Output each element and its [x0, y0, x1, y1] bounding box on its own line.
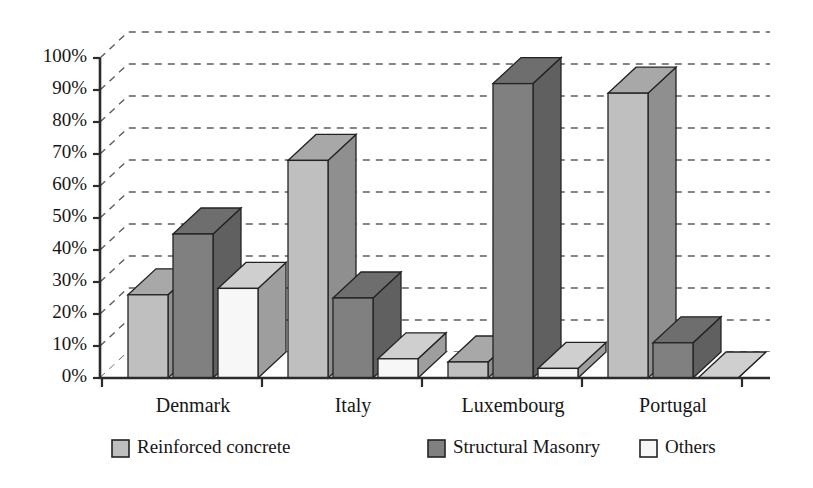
legend-label-others: Others	[665, 436, 716, 457]
bar-luxembourg-reinforced-concrete-front	[448, 362, 488, 378]
legend-swatch-structural-masonry	[428, 440, 445, 457]
x-axis-label-luxembourg: Luxembourg	[462, 394, 565, 417]
bar-portugal-structural-masonry-front	[653, 343, 693, 378]
legend-label-reinforced-concrete: Reinforced concrete	[137, 436, 291, 457]
y-axis-label-30pct: 30%	[52, 269, 87, 290]
chart-container: 0%10%20%30%40%50%60%70%80%90%100% Denmar…	[0, 0, 813, 488]
legend-swatch-reinforced-concrete	[112, 440, 129, 457]
x-axis-label-denmark: Denmark	[156, 394, 230, 416]
bar-italy-structural-masonry-front	[333, 298, 373, 378]
y-axis-label-40pct: 40%	[52, 237, 87, 258]
legend-item-reinforced-concrete[interactable]: Reinforced concrete	[112, 436, 291, 457]
bar-portugal-reinforced-concrete-front	[608, 93, 648, 378]
y-axis-label-90pct: 90%	[52, 77, 87, 98]
y-axis-label-10pct: 10%	[52, 333, 87, 354]
bar-denmark-others-front	[218, 288, 258, 378]
bar-italy-reinforced-concrete-front	[288, 160, 328, 378]
bar-denmark-reinforced-concrete-front	[128, 295, 168, 378]
x-axis-label-italy: Italy	[335, 394, 372, 417]
y-axis-label-50pct: 50%	[52, 205, 87, 226]
y-axis-label-100pct: 100%	[43, 45, 88, 66]
bar-luxembourg-others-front	[538, 368, 578, 378]
legend-swatch-others	[640, 440, 657, 457]
bar-denmark-structural-masonry-front	[173, 234, 213, 378]
legend-item-structural-masonry[interactable]: Structural Masonry	[428, 436, 601, 457]
bar-denmark-others	[218, 262, 286, 378]
y-axis-label-20pct: 20%	[52, 301, 87, 322]
bar-luxembourg-structural-masonry-side	[533, 58, 561, 378]
y-axis-label-70pct: 70%	[52, 141, 87, 162]
y-axis-label-80pct: 80%	[52, 109, 87, 130]
legend-label-structural-masonry: Structural Masonry	[453, 436, 601, 457]
bar-italy-others-front	[378, 359, 418, 378]
grouped-bar-chart-3d: 0%10%20%30%40%50%60%70%80%90%100% Denmar…	[0, 0, 813, 488]
bar-luxembourg-structural-masonry	[493, 58, 561, 378]
x-axis-label-portugal: Portugal	[639, 394, 707, 417]
legend-item-others[interactable]: Others	[640, 436, 716, 457]
y-axis-label-60pct: 60%	[52, 173, 87, 194]
bar-luxembourg-structural-masonry-front	[493, 84, 533, 378]
y-axis-label-0pct: 0%	[62, 365, 88, 386]
